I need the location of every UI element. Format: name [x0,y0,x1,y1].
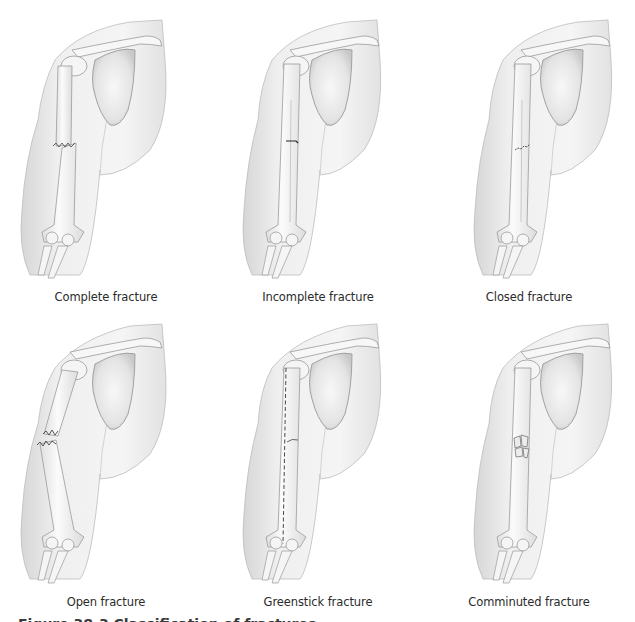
panel-incomplete-fracture: Incomplete fracture [212,0,424,305]
label-closed-fracture: Closed fracture [423,290,635,304]
panel-complete-fracture: Complete fracture [0,0,212,305]
panel-greenstick-fracture: Greenstick fracture [212,308,424,613]
label-greenstick-fracture: Greenstick fracture [212,595,424,609]
label-comminuted-fracture: Comminuted fracture [423,595,635,609]
arm-illustration-incomplete [212,0,424,290]
panel-open-fracture: Open fracture [0,308,212,613]
panel-closed-fracture: Closed fracture [423,0,635,305]
arm-illustration-complete [0,0,212,290]
label-complete-fracture: Complete fracture [0,290,212,304]
figure-caption: Figure 38-3 Classification of fractures. [18,614,322,622]
arm-illustration-closed [423,0,635,290]
arm-illustration-comminuted [423,308,635,598]
arm-illustration-greenstick [212,308,424,598]
label-incomplete-fracture: Incomplete fracture [212,290,424,304]
label-open-fracture: Open fracture [0,595,212,609]
panel-comminuted-fracture: Comminuted fracture [423,308,635,613]
arm-illustration-open [0,308,212,598]
